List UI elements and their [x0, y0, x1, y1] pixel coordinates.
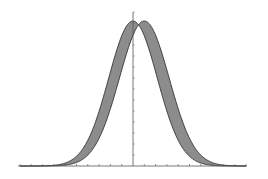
gaussian-band-chart [0, 0, 268, 179]
